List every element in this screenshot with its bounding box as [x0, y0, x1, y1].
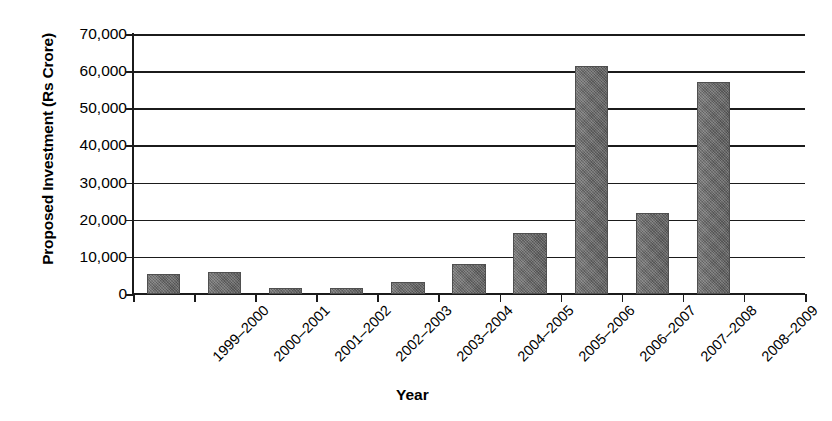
- bar: [147, 274, 180, 294]
- x-axis-tick-mark: [805, 294, 807, 302]
- x-axis-tick-label-group: 1999–20002000–20012001–20022002–20032003…: [133, 294, 805, 394]
- y-axis-tick-label: 10,000: [55, 248, 127, 266]
- x-axis-tick-label: 2002–2003: [392, 302, 455, 365]
- bar: [636, 213, 669, 294]
- x-axis-tick-label: 2005–2006: [575, 302, 638, 365]
- x-axis-tick-label: 2007–2008: [698, 302, 761, 365]
- y-axis-tick-label: 50,000: [55, 99, 127, 117]
- y-axis-tick-label: 0: [55, 285, 127, 303]
- x-axis-tick-label: 2006–2007: [636, 302, 699, 365]
- bar: [391, 282, 424, 294]
- x-axis-tick-label: 2003–2004: [453, 302, 516, 365]
- bar: [452, 264, 485, 294]
- plot-area: [133, 34, 805, 294]
- bar: [208, 272, 241, 294]
- x-axis-title: Year: [396, 386, 429, 404]
- bar: [575, 66, 608, 294]
- x-axis-tick-label: 1999–2000: [209, 302, 272, 365]
- y-axis-tick-label: 40,000: [55, 136, 127, 154]
- y-axis-tick-label: 20,000: [55, 211, 127, 229]
- y-axis-tick-label-group: 010,00020,00030,00040,00050,00060,00070,…: [55, 0, 127, 421]
- y-axis-tick-label: 70,000: [55, 25, 127, 43]
- y-axis-tick-label: 30,000: [55, 174, 127, 192]
- x-axis-tick-label: 2000–2001: [270, 302, 333, 365]
- x-axis-tick-label: 2004–2005: [514, 302, 577, 365]
- y-axis-tick-label: 60,000: [55, 62, 127, 80]
- bar: [697, 82, 730, 294]
- bar-chart-figure: Proposed Investment (Rs Crore) 010,00020…: [0, 0, 832, 421]
- x-axis-tick-label: 2008–2009: [759, 302, 822, 365]
- bar-series-group: [133, 34, 805, 294]
- x-axis-tick-label: 2001–2002: [331, 302, 394, 365]
- bar: [513, 233, 546, 294]
